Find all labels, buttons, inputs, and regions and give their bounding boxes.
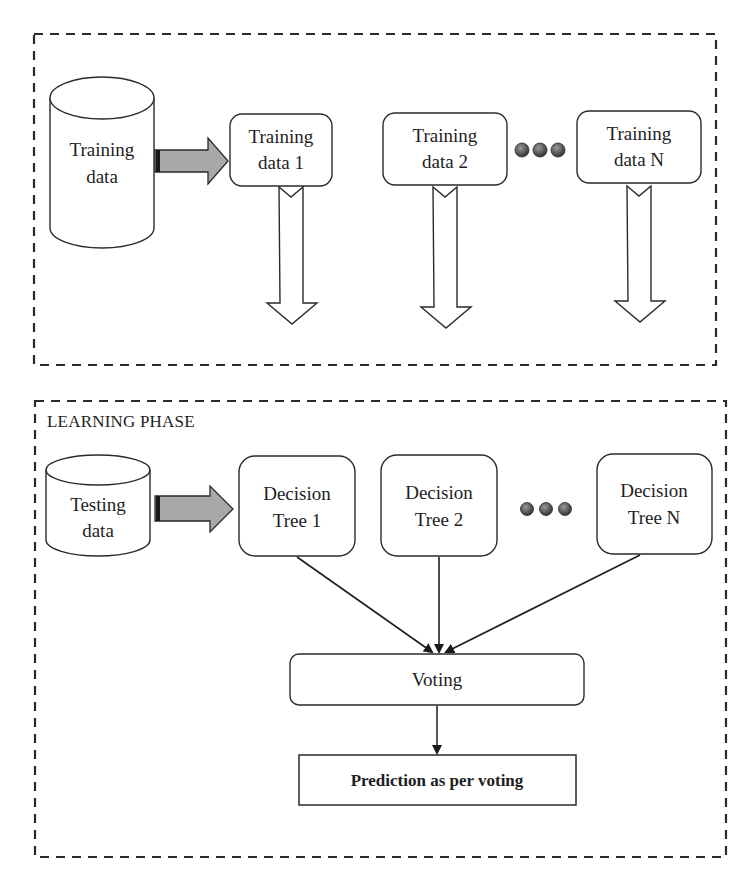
svg-text:data 1: data 1 — [258, 152, 304, 173]
training-data-label-line1: Training — [70, 139, 135, 160]
decision-tree-n: Decision Tree N — [597, 454, 712, 554]
learning-phase-label: LEARNING PHASE — [47, 412, 195, 431]
down-arrow-icon-2 — [421, 187, 471, 328]
svg-text:Tree 2: Tree 2 — [415, 509, 463, 530]
three-dots-icon — [515, 143, 565, 157]
svg-text:Decision: Decision — [620, 480, 688, 501]
svg-text:Training: Training — [249, 126, 314, 147]
training-subset-n: Training data N — [577, 111, 701, 183]
training-subset-1: Training data 1 — [230, 114, 332, 186]
training-data-cylinder: Training data — [50, 77, 154, 248]
svg-text:Tree N: Tree N — [628, 507, 681, 528]
prediction-box: Prediction as per voting — [299, 755, 576, 805]
gray-arrow-icon — [155, 486, 233, 532]
down-arrow-icon-n — [615, 186, 665, 322]
decision-tree-1: Decision Tree 1 — [239, 456, 355, 556]
down-arrow-icon-1 — [267, 187, 317, 324]
learning-phase-section: LEARNING PHASE Testing data Decision Tre… — [35, 401, 726, 857]
voting-box: Voting — [290, 654, 584, 705]
training-subset-2: Training data 2 — [383, 113, 507, 185]
gray-arrow-icon — [155, 138, 228, 184]
svg-text:Training: Training — [413, 125, 478, 146]
svg-text:Training: Training — [607, 123, 672, 144]
svg-text:data N: data N — [614, 149, 664, 170]
svg-text:Tree 1: Tree 1 — [273, 510, 321, 531]
testing-data-label-line2: data — [82, 520, 114, 541]
testing-data-label-line1: Testing — [70, 494, 126, 515]
training-data-label-line2: data — [86, 166, 118, 187]
svg-text:data 2: data 2 — [422, 151, 468, 172]
svg-text:Decision: Decision — [405, 482, 473, 503]
top-section: Training data Training data 1 Training d… — [34, 34, 716, 365]
tree-to-voting-connectors — [297, 555, 640, 652]
three-dots-icon — [521, 503, 572, 516]
random-forest-diagram: Training data Training data 1 Training d… — [0, 0, 753, 887]
testing-data-cylinder: Testing data — [46, 455, 150, 556]
decision-tree-2: Decision Tree 2 — [381, 455, 497, 556]
prediction-label: Prediction as per voting — [351, 771, 524, 790]
voting-label: Voting — [412, 669, 463, 690]
svg-text:Decision: Decision — [263, 483, 331, 504]
